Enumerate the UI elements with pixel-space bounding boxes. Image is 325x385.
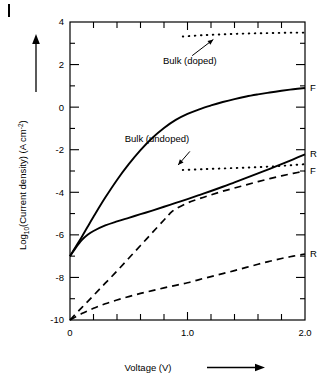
y-tick-label: -4 — [56, 187, 64, 198]
x-tick-label: 1.0 — [181, 327, 194, 338]
series-edge-labels: FRFR — [310, 82, 317, 259]
chart-canvas: 01.02.0 420-2-4-6-8-10 FRFR Bulk (doped)… — [0, 0, 325, 385]
y-axis-direction-arrow — [32, 34, 40, 92]
chart-annotations: Bulk (doped)Bulk (undoped) — [125, 39, 217, 165]
plot-frame — [70, 22, 305, 320]
series-curve — [183, 164, 305, 170]
y-tick-label: -10 — [50, 314, 64, 325]
y-axis-title: Log10(Current density) (A cm-2) — [17, 120, 30, 250]
y-axis-title-prefix: Log — [17, 234, 28, 250]
annotation-label: Bulk (doped) — [163, 55, 217, 66]
series-curve — [70, 88, 305, 256]
x-axis-direction-arrow — [207, 364, 265, 372]
y-tick-label: -2 — [56, 144, 64, 155]
x-axis-tick-labels: 01.02.0 — [67, 327, 311, 338]
figure-container: 01.02.0 420-2-4-6-8-10 FRFR Bulk (doped)… — [0, 0, 325, 385]
x-tick-label: 2.0 — [298, 327, 311, 338]
y-tick-label: 0 — [59, 102, 64, 113]
y-axis-tick-labels: 420-2-4-6-8-10 — [50, 16, 64, 325]
series-edge-label: R — [310, 148, 317, 159]
series-curve — [70, 171, 305, 320]
series-curve — [183, 33, 305, 37]
y-tick-label: -8 — [56, 272, 64, 283]
series-edge-label: R — [310, 248, 317, 259]
y-tick-label: 4 — [59, 16, 64, 27]
series-edge-label: F — [310, 165, 316, 176]
y-tick-label: 2 — [59, 59, 64, 70]
data-series-group — [70, 33, 305, 320]
series-curve — [70, 254, 305, 320]
series-edge-label: F — [310, 82, 316, 93]
x-axis-title: Voltage (V) — [125, 362, 172, 373]
page-corner-mark — [8, 4, 10, 17]
y-tick-label: -6 — [56, 229, 64, 240]
x-tick-label: 0 — [67, 327, 72, 338]
annotation-arrowhead — [208, 39, 214, 44]
annotation-label: Bulk (undoped) — [125, 133, 189, 144]
series-curve — [70, 154, 305, 256]
y-axis-title-suffix: ) — [17, 120, 28, 123]
y-axis-title-middle: (Current density) (A cm — [17, 129, 28, 227]
x-axis-ticks — [94, 22, 282, 320]
